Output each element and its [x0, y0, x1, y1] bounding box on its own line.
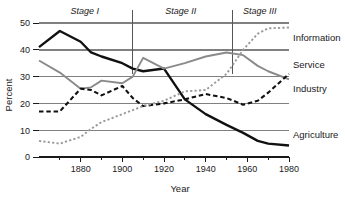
- series-label-agriculture: Agriculture: [293, 129, 338, 140]
- series-labels-group: InformationServiceIndustryAgriculture: [293, 32, 341, 139]
- y-tick-label-50: 50: [20, 18, 30, 28]
- stage-labels-group: Stage IStage IIStage III: [71, 6, 278, 16]
- x-tick-label-1940: 1940: [196, 164, 216, 174]
- y-tick-label-40: 40: [20, 45, 30, 55]
- series-line-agriculture: [39, 31, 289, 145]
- series-label-information: Information: [293, 32, 341, 43]
- y-axis-title: Percent: [3, 78, 14, 111]
- x-tick-label-1900: 1900: [112, 164, 132, 174]
- x-tick-label-1980: 1980: [279, 164, 299, 174]
- stage-label-2: Stage II: [165, 6, 197, 16]
- economic-sectors-line-chart: 01020304050 188019001920194019601980 Sta…: [0, 0, 345, 200]
- x-tick-label-1920: 1920: [154, 164, 174, 174]
- y-tick-label-10: 10: [20, 126, 30, 136]
- y-tick-label-30: 30: [20, 72, 30, 82]
- series-label-service: Service: [293, 59, 325, 70]
- series-group: [39, 28, 289, 146]
- chart-plot-area: 01020304050 188019001920194019601980 Sta…: [0, 0, 345, 200]
- y-tick-label-20: 20: [20, 99, 30, 109]
- x-tick-label-1880: 1880: [71, 164, 91, 174]
- stage-label-1: Stage I: [71, 6, 100, 16]
- stage-label-3: Stage III: [243, 6, 277, 16]
- series-line-industry: [39, 74, 289, 112]
- x-axis-title: Year: [170, 183, 189, 194]
- x-tick-label-1960: 1960: [237, 164, 257, 174]
- series-label-industry: Industry: [293, 83, 327, 94]
- y-tick-labels-group: 01020304050: [20, 18, 30, 162]
- y-tick-label-0: 0: [25, 152, 30, 162]
- x-tick-labels-group: 188019001920194019601980: [71, 164, 299, 174]
- axis-group: [33, 23, 289, 162]
